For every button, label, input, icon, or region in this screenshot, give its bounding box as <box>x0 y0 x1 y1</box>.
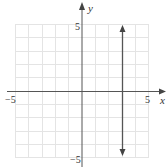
x-max-tick-label: 5 <box>145 94 150 105</box>
x-min-tick-label: −5 <box>5 94 16 105</box>
x-axis <box>7 89 166 95</box>
line-up-arrow-icon <box>120 25 126 32</box>
y-axis-label: y <box>87 2 93 14</box>
y-max-tick-label: 5 <box>75 21 80 32</box>
y-min-tick-label: −5 <box>70 154 81 165</box>
x-axis-label: x <box>159 94 165 106</box>
vertical-line-x-3 <box>120 25 126 156</box>
coordinate-plane: −5 5 5 −5 x y <box>0 0 168 167</box>
y-axis-arrow-icon <box>79 2 85 10</box>
line-down-arrow-icon <box>120 149 126 156</box>
